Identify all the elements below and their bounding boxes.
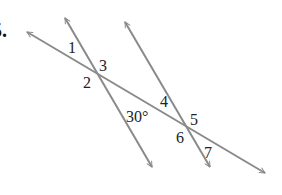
angle-label-1: 1 [68, 40, 76, 56]
angle-label-5: 5 [190, 112, 198, 128]
angle-label-7: 7 [204, 145, 212, 161]
given-angle-label: 30° [126, 109, 148, 125]
main-line [27, 32, 265, 173]
angle-label-4: 4 [160, 94, 168, 110]
parallel-lines-diagram [0, 0, 282, 195]
angle-label-2: 2 [83, 75, 91, 91]
left-transversal [65, 18, 152, 167]
angle-label-3: 3 [99, 58, 107, 74]
angle-label-6: 6 [176, 130, 184, 146]
